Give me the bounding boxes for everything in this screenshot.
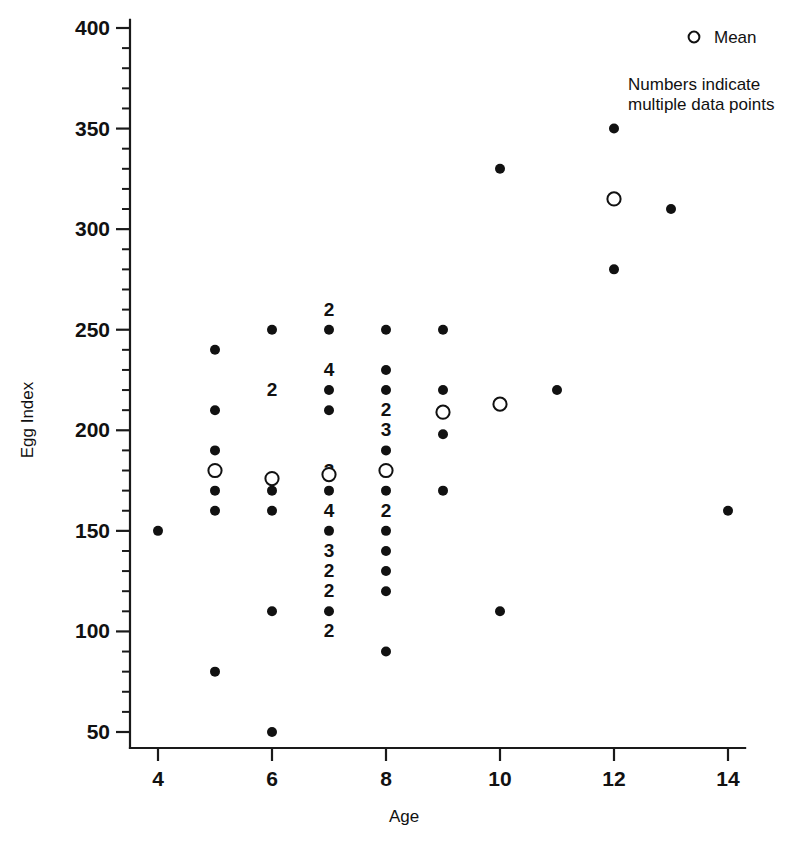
data-point-marker [210,405,220,415]
data-point-marker [381,325,391,335]
data-point-marker [381,365,391,375]
data-point-marker [210,345,220,355]
y-axis-tick-label: 400 [75,16,110,39]
mean-marker [208,464,221,477]
legend-mean-marker-icon [689,32,700,43]
data-point-marker [381,586,391,596]
data-point-marker [495,606,505,616]
y-axis-tick-labels: 50100150200250300350400 [75,16,110,743]
x-axis-tick-label: 8 [380,767,392,790]
y-axis-tick-label: 150 [75,519,110,542]
data-point-marker [210,506,220,516]
data-point-marker [381,445,391,455]
x-axis-tick-label: 12 [602,767,625,790]
data-point-marker [267,606,277,616]
data-point-marker [324,526,334,536]
data-point-marker [381,647,391,657]
mean-marker [322,468,335,481]
data-point-marker [381,566,391,576]
x-axis-major-ticks [158,748,728,761]
data-point-marker [552,385,562,395]
data-point-marker [324,405,334,415]
y-axis-major-ticks [116,28,130,732]
x-axis-tick-label: 10 [488,767,511,790]
x-axis-tick-labels: 468101214 [152,767,740,790]
y-axis-tick-label: 200 [75,418,110,441]
chart-canvas: 50100150200250300350400 468101214 Age Eg… [0,0,810,851]
data-point-marker [324,385,334,395]
data-point-count-label: 2 [324,299,335,320]
y-axis-tick-label: 50 [87,720,110,743]
data-point-marker [438,325,448,335]
mean-points-layer [208,192,620,485]
data-point-marker [723,506,733,516]
mean-marker [436,406,449,419]
legend-mean-label: Mean [714,28,757,47]
legend: Mean Numbers indicate multiple data poin… [628,28,774,114]
data-point-marker [324,606,334,616]
x-axis-tick-label: 6 [266,767,278,790]
data-point-marker [438,385,448,395]
data-point-count-label: 2 [381,500,392,521]
data-point-marker [381,546,391,556]
data-point-marker [267,727,277,737]
legend-note-line-2: multiple data points [628,95,774,114]
mean-marker [607,192,620,205]
data-point-marker [210,445,220,455]
mean-marker [265,472,278,485]
data-point-marker [381,385,391,395]
data-point-count-label: 2 [324,620,335,641]
mean-marker [379,464,392,477]
data-point-marker [324,486,334,496]
data-point-count-label: 2 [267,379,278,400]
y-axis-tick-label: 100 [75,619,110,642]
data-point-marker [666,204,676,214]
y-axis-tick-label: 300 [75,217,110,240]
data-point-count-label: 4 [324,500,335,521]
data-point-marker [381,526,391,536]
data-point-marker [381,486,391,496]
scatter-plot-figure: 50100150200250300350400 468101214 Age Eg… [0,0,810,851]
data-point-marker [495,164,505,174]
data-point-marker [267,506,277,516]
y-axis-tick-label: 350 [75,117,110,140]
y-axis-title: Egg Index [18,381,37,458]
data-point-marker [438,429,448,439]
data-point-count-label: 3 [324,540,335,561]
data-point-count-label: 2 [381,399,392,420]
data-point-marker [438,486,448,496]
data-points-layer: 224343222232 [153,124,733,737]
data-point-marker [609,264,619,274]
x-axis-title: Age [389,807,419,826]
data-point-count-label: 3 [381,419,392,440]
x-axis-tick-label: 14 [716,767,740,790]
data-point-count-label: 2 [324,580,335,601]
data-point-marker [609,124,619,134]
legend-note-line-1: Numbers indicate [628,75,760,94]
y-axis-minor-ticks [122,48,130,712]
data-point-marker [153,526,163,536]
data-point-marker [210,486,220,496]
plot-axes [130,20,745,748]
data-point-marker [267,486,277,496]
data-point-marker [210,667,220,677]
data-point-count-label: 2 [324,560,335,581]
data-point-count-label: 4 [324,359,335,380]
y-axis-tick-label: 250 [75,318,110,341]
x-axis-tick-label: 4 [152,767,164,790]
mean-marker [493,398,506,411]
data-point-marker [267,325,277,335]
data-point-marker [324,325,334,335]
